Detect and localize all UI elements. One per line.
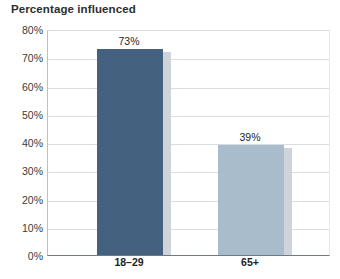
y-tick-label: 30% — [1, 165, 43, 177]
bar-group — [218, 31, 292, 255]
bar-group — [97, 31, 171, 255]
bar-18-29[interactable] — [97, 49, 163, 255]
x-tick-label-18-29: 18–29 — [96, 256, 162, 268]
y-tick-label: 60% — [1, 81, 43, 93]
y-tick-label: 40% — [1, 137, 43, 149]
y-tick-label: 70% — [1, 52, 43, 64]
bar-value-label-65-plus: 39% — [217, 131, 283, 143]
bar-value-label-18-29: 73% — [96, 35, 162, 47]
y-axis: 80% 70% 60% 50% 40% 30% 20% 10% 0% — [0, 30, 43, 256]
plot-area — [47, 30, 330, 256]
y-tick-label: 0% — [1, 250, 43, 262]
y-tick-label: 10% — [1, 222, 43, 234]
chart-title: Percentage influenced — [11, 3, 136, 15]
y-tick-label: 20% — [1, 194, 43, 206]
x-tick-label-65-plus: 65+ — [217, 256, 283, 268]
y-tick-label: 50% — [1, 109, 43, 121]
y-tick-label: 80% — [1, 24, 43, 36]
bar-65-plus[interactable] — [218, 145, 284, 255]
bar-chart: Percentage influenced 80% 70% 60% 50% 40… — [0, 0, 340, 279]
